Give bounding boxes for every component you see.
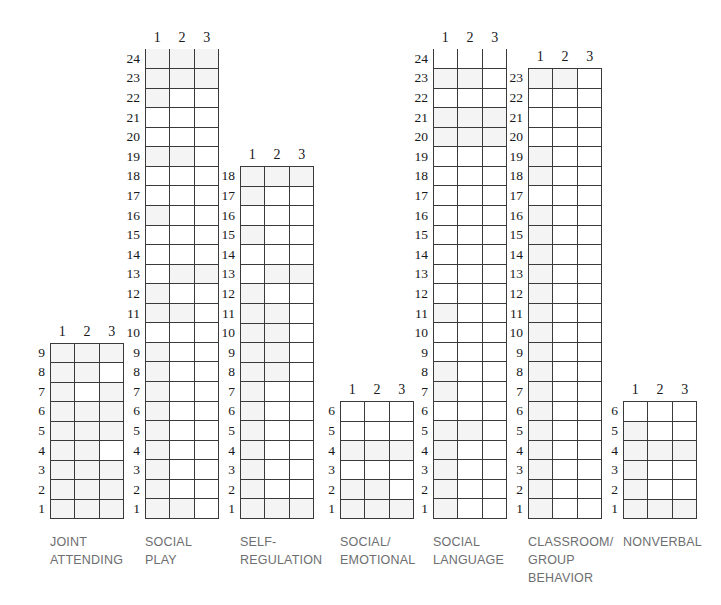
grid-cell-self-regulation-r2-c2[interactable]: [265, 480, 289, 500]
grid-cell-self-regulation-r12-c1[interactable]: [241, 284, 265, 304]
grid-cell-self-regulation-r4-c2[interactable]: [265, 441, 289, 461]
grid-cell-self-regulation-r17-c1[interactable]: [241, 187, 265, 207]
grid-cell-social-play-r12-c1[interactable]: [146, 284, 170, 304]
grid-cell-nonverbal-r1-c2[interactable]: [648, 500, 672, 519]
grid-cell-classroom-group-behavior-r1-c1[interactable]: [529, 499, 553, 519]
grid-cell-self-regulation-r4-c1[interactable]: [241, 441, 265, 461]
grid-cell-social-play-r9-c3[interactable]: [195, 343, 219, 363]
grid-cell-social-play-r19-c1[interactable]: [146, 147, 170, 167]
grid-cell-classroom-group-behavior-r19-c2[interactable]: [553, 147, 577, 167]
grid-cell-self-regulation-r17-c2[interactable]: [265, 187, 289, 207]
grid-cell-social-language-r2-c3[interactable]: [483, 480, 507, 500]
grid-cell-social-language-r3-c3[interactable]: [483, 460, 507, 480]
grid-cell-social-play-r8-c2[interactable]: [170, 362, 194, 382]
grid-cell-social-play-r21-c2[interactable]: [170, 108, 194, 128]
grid-cell-classroom-group-behavior-r7-c3[interactable]: [578, 382, 602, 402]
grid-cell-social-play-r13-c1[interactable]: [146, 265, 170, 285]
grid-cell-social-language-r17-c1[interactable]: [434, 186, 458, 206]
grid-cell-social-emotional-r6-c1[interactable]: [341, 402, 365, 421]
grid-cell-social-language-r23-c1[interactable]: [434, 69, 458, 89]
grid-cell-social-play-r11-c2[interactable]: [170, 304, 194, 324]
grid-cell-social-language-r16-c1[interactable]: [434, 206, 458, 226]
grid-cell-joint-attending-r4-c3[interactable]: [100, 441, 124, 460]
grid-cell-self-regulation-r11-c1[interactable]: [241, 304, 265, 324]
grid-cell-social-play-r23-c1[interactable]: [146, 69, 170, 89]
grid-cell-joint-attending-r8-c3[interactable]: [100, 363, 124, 382]
grid-cell-self-regulation-r7-c2[interactable]: [265, 382, 289, 402]
grid-cell-social-play-r13-c2[interactable]: [170, 265, 194, 285]
grid-cell-classroom-group-behavior-r14-c2[interactable]: [553, 245, 577, 265]
grid-cell-self-regulation-r11-c3[interactable]: [290, 304, 314, 324]
grid-cell-social-language-r16-c3[interactable]: [483, 206, 507, 226]
grid-cell-social-language-r10-c3[interactable]: [483, 323, 507, 343]
grid-cell-nonverbal-r3-c3[interactable]: [673, 461, 697, 480]
grid-cell-social-language-r7-c1[interactable]: [434, 382, 458, 402]
grid-cell-self-regulation-r7-c3[interactable]: [290, 382, 314, 402]
grid-cell-joint-attending-r9-c3[interactable]: [100, 344, 124, 363]
grid-cell-social-language-r5-c2[interactable]: [458, 421, 482, 441]
grid-cell-classroom-group-behavior-r22-c1[interactable]: [529, 89, 553, 109]
grid-cell-social-language-r6-c1[interactable]: [434, 402, 458, 422]
grid-cell-classroom-group-behavior-r23-c1[interactable]: [529, 69, 553, 89]
grid-cell-joint-attending-r1-c2[interactable]: [75, 500, 99, 519]
grid-cell-classroom-group-behavior-r2-c2[interactable]: [553, 480, 577, 500]
grid-cell-social-language-r18-c1[interactable]: [434, 167, 458, 187]
grid-cell-social-language-r22-c3[interactable]: [483, 89, 507, 109]
grid-cell-self-regulation-r1-c1[interactable]: [241, 499, 265, 519]
grid-cell-social-play-r19-c2[interactable]: [170, 147, 194, 167]
grid-cell-classroom-group-behavior-r4-c3[interactable]: [578, 441, 602, 461]
grid-cell-nonverbal-r6-c1[interactable]: [624, 402, 648, 421]
grid-cell-self-regulation-r2-c3[interactable]: [290, 480, 314, 500]
grid-cell-classroom-group-behavior-r11-c3[interactable]: [578, 304, 602, 324]
grid-cell-classroom-group-behavior-r18-c1[interactable]: [529, 167, 553, 187]
grid-cell-social-play-r1-c2[interactable]: [170, 499, 194, 519]
grid-cell-social-emotional-r3-c2[interactable]: [365, 461, 389, 480]
grid-cell-social-play-r20-c3[interactable]: [195, 128, 219, 148]
grid-cell-classroom-group-behavior-r22-c2[interactable]: [553, 89, 577, 109]
grid-cell-joint-attending-r8-c1[interactable]: [51, 363, 75, 382]
grid-cell-social-emotional-r4-c2[interactable]: [365, 441, 389, 460]
grid-cell-self-regulation-r15-c2[interactable]: [265, 226, 289, 246]
grid-cell-classroom-group-behavior-r6-c3[interactable]: [578, 402, 602, 422]
grid-cell-classroom-group-behavior-r11-c2[interactable]: [553, 304, 577, 324]
grid-cell-classroom-group-behavior-r22-c3[interactable]: [578, 89, 602, 109]
grid-cell-social-play-r18-c3[interactable]: [195, 167, 219, 187]
grid-cell-self-regulation-r5-c2[interactable]: [265, 421, 289, 441]
grid-cell-social-language-r22-c1[interactable]: [434, 89, 458, 109]
grid-cell-social-language-r19-c2[interactable]: [458, 147, 482, 167]
grid-cell-social-play-r24-c1[interactable]: [146, 49, 170, 69]
grid-cell-joint-attending-r4-c2[interactable]: [75, 441, 99, 460]
grid-cell-nonverbal-r2-c3[interactable]: [673, 480, 697, 499]
grid-cell-self-regulation-r11-c2[interactable]: [265, 304, 289, 324]
grid-cell-classroom-group-behavior-r13-c3[interactable]: [578, 265, 602, 285]
grid-cell-social-play-r22-c2[interactable]: [170, 89, 194, 109]
grid-cell-classroom-group-behavior-r10-c2[interactable]: [553, 323, 577, 343]
grid-cell-classroom-group-behavior-r3-c3[interactable]: [578, 460, 602, 480]
grid-cell-joint-attending-r5-c2[interactable]: [75, 422, 99, 441]
grid-cell-self-regulation-r18-c1[interactable]: [241, 167, 265, 187]
grid-cell-social-play-r19-c3[interactable]: [195, 147, 219, 167]
grid-cell-social-play-r12-c3[interactable]: [195, 284, 219, 304]
grid-cell-joint-attending-r6-c2[interactable]: [75, 402, 99, 421]
grid-cell-classroom-group-behavior-r13-c2[interactable]: [553, 265, 577, 285]
grid-cell-classroom-group-behavior-r23-c3[interactable]: [578, 69, 602, 89]
grid-cell-nonverbal-r3-c1[interactable]: [624, 461, 648, 480]
grid-cell-classroom-group-behavior-r23-c2[interactable]: [553, 69, 577, 89]
grid-cell-self-regulation-r3-c2[interactable]: [265, 460, 289, 480]
grid-cell-social-play-r11-c3[interactable]: [195, 304, 219, 324]
grid-cell-joint-attending-r1-c3[interactable]: [100, 500, 124, 519]
grid-cell-nonverbal-r6-c3[interactable]: [673, 402, 697, 421]
grid-cell-joint-attending-r3-c1[interactable]: [51, 461, 75, 480]
grid-cell-social-play-r7-c3[interactable]: [195, 382, 219, 402]
grid-cell-self-regulation-r13-c2[interactable]: [265, 265, 289, 285]
grid-cell-social-play-r18-c2[interactable]: [170, 167, 194, 187]
grid-cell-self-regulation-r8-c1[interactable]: [241, 363, 265, 383]
grid-cell-social-language-r8-c3[interactable]: [483, 362, 507, 382]
grid-cell-classroom-group-behavior-r1-c2[interactable]: [553, 499, 577, 519]
grid-cell-self-regulation-r12-c3[interactable]: [290, 284, 314, 304]
grid-cell-social-emotional-r3-c3[interactable]: [390, 461, 414, 480]
grid-cell-self-regulation-r14-c2[interactable]: [265, 245, 289, 265]
grid-cell-joint-attending-r7-c2[interactable]: [75, 383, 99, 402]
grid-cell-self-regulation-r16-c1[interactable]: [241, 206, 265, 226]
grid-cell-self-regulation-r6-c3[interactable]: [290, 402, 314, 422]
